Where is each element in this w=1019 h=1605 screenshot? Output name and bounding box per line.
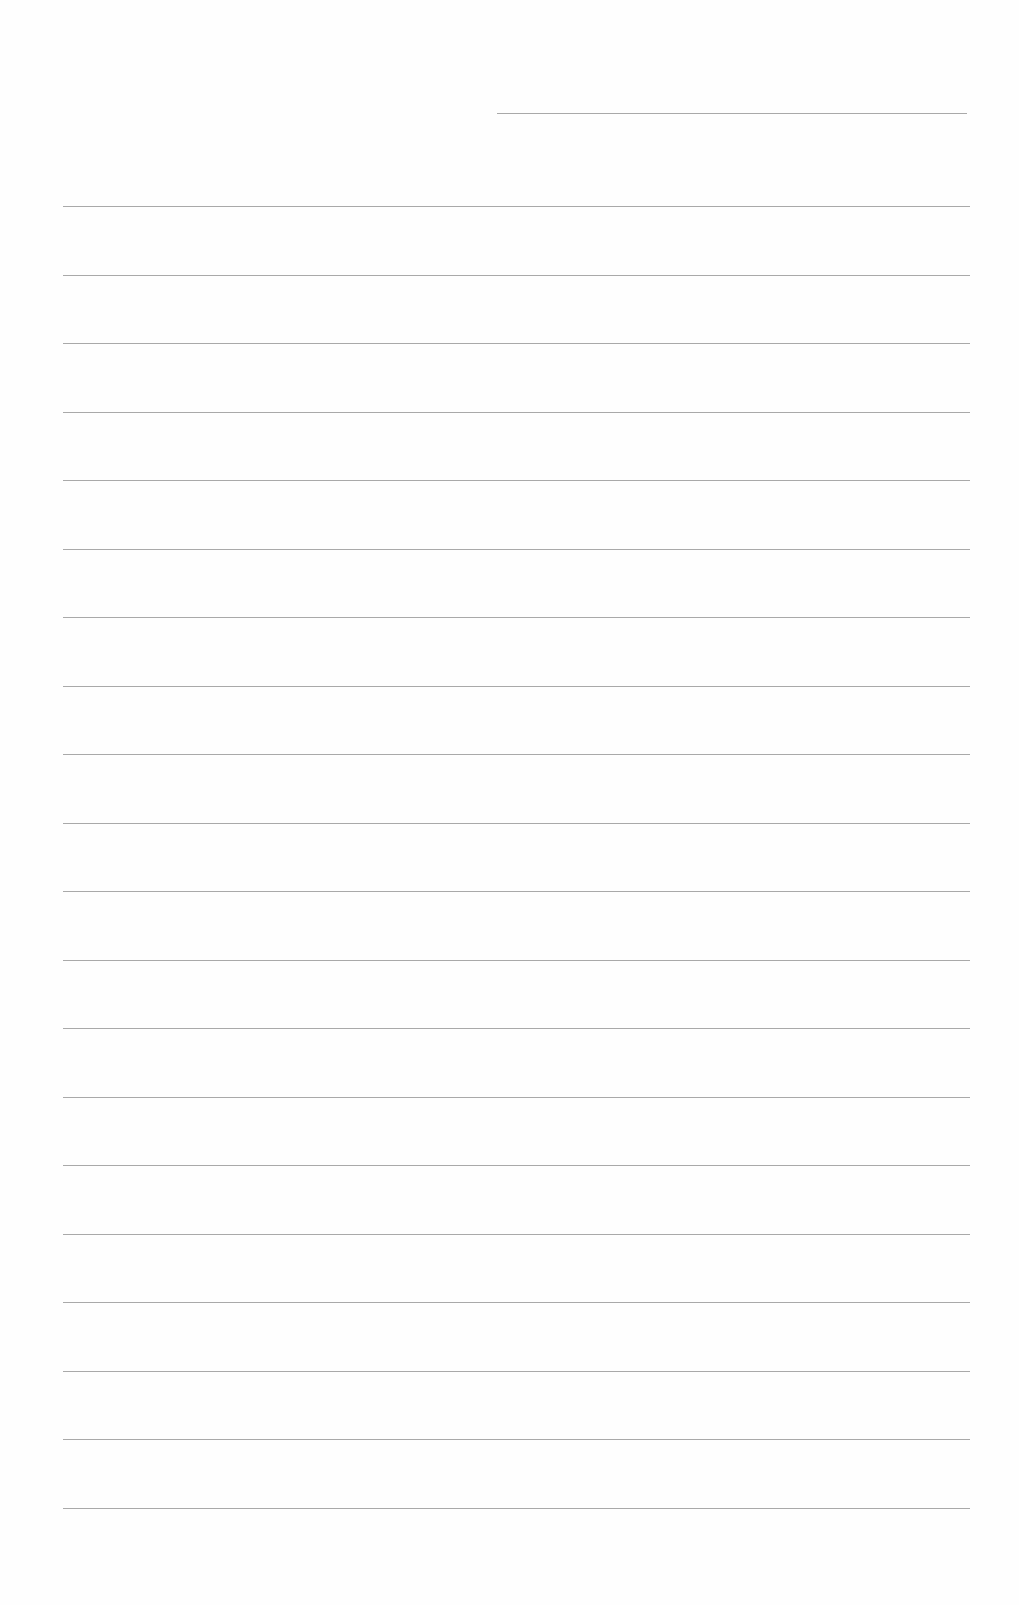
ruled-line — [63, 1165, 970, 1166]
ruled-line — [63, 549, 970, 550]
ruled-line — [63, 412, 970, 413]
ruled-line — [63, 480, 970, 481]
ruled-line — [63, 1439, 970, 1440]
ruled-line — [63, 960, 970, 961]
ruled-line — [63, 343, 970, 344]
ruled-line — [63, 686, 970, 687]
ruled-line — [63, 891, 970, 892]
ruled-line — [63, 823, 970, 824]
ruled-line — [63, 206, 970, 207]
header-name-line — [497, 113, 967, 114]
ruled-line — [63, 1508, 970, 1509]
ruled-line — [63, 617, 970, 618]
ruled-line — [63, 1234, 970, 1235]
ruled-line — [63, 1302, 970, 1303]
ruled-line — [63, 1371, 970, 1372]
ruled-line — [63, 275, 970, 276]
lined-paper-page — [0, 0, 1019, 1605]
ruled-line — [63, 754, 970, 755]
ruled-line — [63, 1097, 970, 1098]
ruled-line — [63, 1028, 970, 1029]
